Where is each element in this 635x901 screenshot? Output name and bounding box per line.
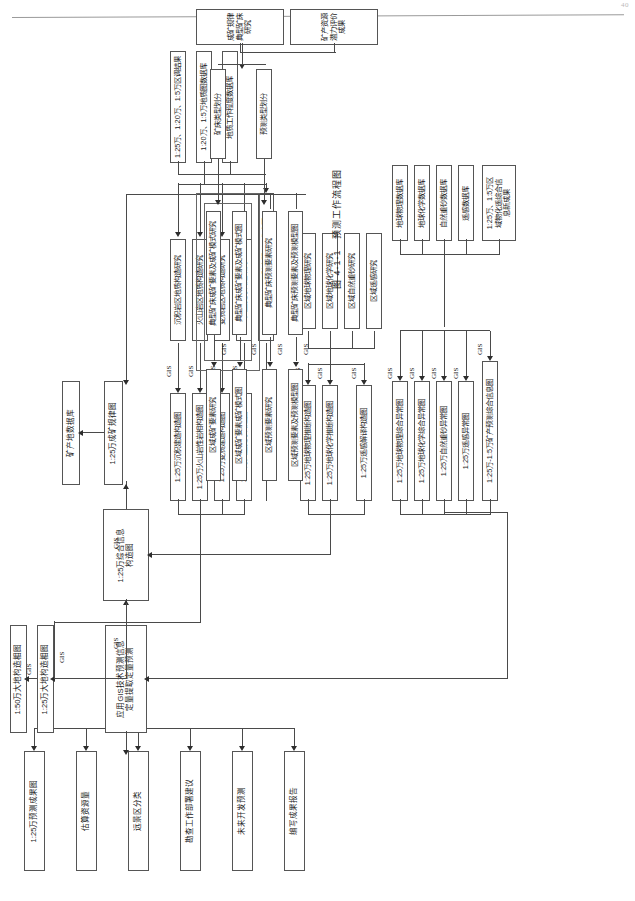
inferred-merge-out [330,513,331,555]
tectonic-output-map-1[interactable]: 1:25万沉积建造构造图 [170,393,186,501]
dep-arrow-3 [267,362,273,367]
deposit-input-2[interactable]: 矿产资源潜力评价成果 [290,9,378,45]
output-node-3[interactable]: 远景区分类 [128,751,149,871]
tect-study-arrow-1 [175,388,181,393]
output-node-6[interactable]: 编写成果报告 [284,751,305,871]
anomaly-merge-s1 [400,499,401,515]
tect-merge-s4 [244,499,245,515]
anomaly-merge-rise [444,512,508,513]
output-arrow-1 [31,746,37,751]
regional-deposit-1[interactable]: 区域成矿要素研究 [206,369,221,481]
output-stub-5 [242,728,243,746]
inferred-merge-bus [308,514,364,515]
tect-merge-s3 [222,499,223,515]
tect-study-link-1 [178,343,179,389]
typical-deposit-4[interactable]: 典型矿床预测要素及预测模型图 [288,211,303,335]
deposit-input-1[interactable]: 成矿规律典型矿床研究 [196,9,284,45]
region-study-4[interactable]: 区域遥感研究 [366,233,382,329]
class-fan-v [218,64,266,65]
dep-link-3 [270,337,271,361]
anomaly-source-bus [400,330,490,331]
regional-deposit-2[interactable]: 区域成矿要素成矿模式图 [232,369,247,481]
dep-arrow-1 [211,362,217,367]
database-3[interactable]: 自然重砂数据库 [436,165,452,241]
output-node-5[interactable]: 未来开发预测 [232,751,253,871]
engine-to-bus [126,731,127,751]
region-merge-s4 [374,331,375,349]
gis-label-anom-2: GIS [408,368,416,379]
database-merge-s5 [499,239,500,255]
gis-label-anom-1: GIS [386,368,394,379]
database-merge-s1 [400,239,401,255]
anomaly-feed-1 [400,331,401,377]
output-arrow-2 [83,746,89,751]
deposit-group-s2 [270,193,271,209]
engine-to-bus-arrow [123,750,129,755]
tectonic-study-1[interactable]: 沉积岩区地质构造研究 [170,239,186,341]
dep-link-4 [296,337,297,361]
anomaly-map-3[interactable]: 1:25万自然重砂异常图 [436,381,452,501]
database-2[interactable]: 地球化学数据库 [414,165,430,241]
class-split-bus [218,174,266,175]
database-merge-bus [400,254,500,255]
anomaly-map-2[interactable]: 1:25万地球化学综合异常图 [414,381,430,501]
tect-merge-bus [178,514,244,515]
output-arrow-4 [187,746,193,751]
anomaly-feed-3 [444,331,445,377]
deposit-class-1[interactable]: 矿床类型划分 [210,69,226,159]
gis-label-dep-1: GIS [220,344,228,355]
regional-deposit-3[interactable]: 区域预测要素研究 [262,369,277,481]
gis-label-inf-3: GIS [350,368,358,379]
gis-label-dep-4: GIS [302,344,310,355]
inferred-map-3[interactable]: 1:25万遥感解译构造图 [356,385,372,501]
dep-arrow-4 [293,362,299,367]
database-merge-out [444,253,445,327]
anomaly-merge-bus [400,514,490,515]
database-5[interactable]: 1:25万、1:5万区 域物化遥综合信 息新成果 [482,165,516,241]
deposit-class-2[interactable]: 预测类型划分 [256,69,272,159]
database-4[interactable]: 遥感数据库 [458,165,474,241]
inferred-map-2[interactable]: 1:25万地球化学推断构造图 [322,385,338,501]
typical-deposit-1[interactable]: 典型矿床成矿要素及成矿模式研究 [206,211,221,335]
anomaly-arrow-1 [397,376,403,381]
anomaly-map-5[interactable]: 1:25万-1:5万矿产预测综合信息图 [482,361,498,501]
anomaly-arrow-3 [441,376,447,381]
dep-arrow-2 [237,362,243,367]
synthesized-info-map[interactable]: 1:25万综合信息 构造图 [103,509,149,601]
output-node-1[interactable]: 1:25万预测成果图 [24,751,45,871]
inferred-to-synth-arrow [147,552,152,558]
gis-label-dep-2: GIS [250,344,258,355]
anomaly-arrow-4 [463,376,469,381]
region-study-3[interactable]: 区域自然重砂研究 [344,233,360,329]
class-input-s2 [334,43,335,53]
output-arrow-6 [291,746,297,751]
anomaly-merge-s2 [422,499,423,515]
region-split-arrow-3 [361,380,367,385]
gis-label-tect: GIS [25,664,33,675]
region-merge-bus [308,348,374,349]
tect-link-arrow [24,676,29,682]
typical-deposit-2[interactable]: 典型矿床成矿要素及成矿模式图 [232,211,247,335]
tect-merge-to-250 [54,621,55,679]
database-1[interactable]: 地球物理数据库 [392,165,408,241]
anomaly-map-1[interactable]: 1:25万地球物理综合异常图 [392,381,408,501]
anomaly-feed-4 [466,331,467,377]
geology-source-1[interactable]: 1:25万、1:20万、1:5万区调结果 [170,51,186,163]
tect-merge-s1 [178,499,179,515]
output-node-4[interactable]: 勘查工作部署建议 [180,751,201,871]
engine-feed-arrow [144,676,149,682]
anomaly-map-4[interactable]: 1:25万遥感异常图 [458,381,474,501]
gis-label-tect-2: GIS [187,366,195,377]
metallogenic-to-db [82,432,104,433]
region-split-3 [364,363,365,381]
typical-deposit-3[interactable]: 典型矿床预测要素研究 [262,211,277,335]
output-node-2[interactable]: 估算资源量 [76,751,97,871]
spine-tect-drop [54,678,126,679]
region-split-arrow-1 [305,380,311,385]
regional-deposit-4[interactable]: 区域预测要素及预测模型图 [288,369,303,481]
class-to-input [242,43,243,65]
deposit-group-bus [210,194,306,195]
database-merge-s2 [422,239,423,255]
inferred-merge-s1 [308,499,309,515]
metallogenic-regularity-map[interactable]: 1:25万成矿规律图 [104,381,123,485]
